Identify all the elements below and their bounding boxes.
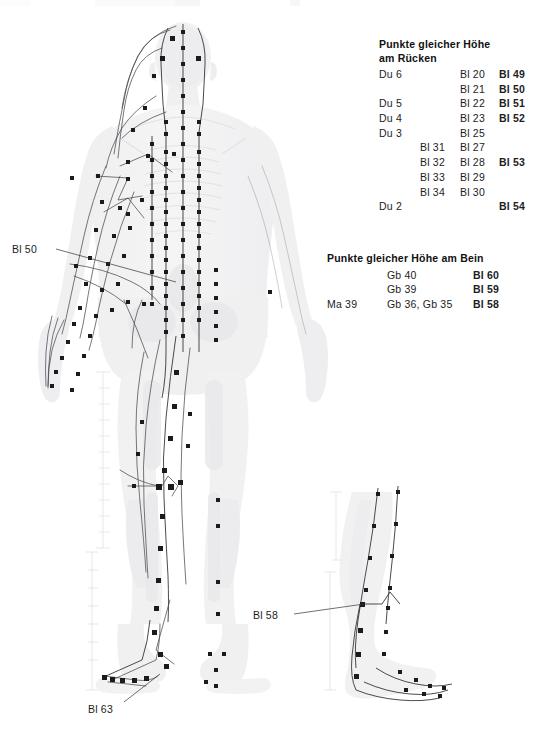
cell-bl: Bl 59 <box>473 284 533 299</box>
cell-bl2x: Bl 27 <box>460 142 499 157</box>
table-row: Gb 40 Bl 60 <box>327 270 533 285</box>
cell-bl2x: Bl 29 <box>460 172 499 187</box>
table-row: Bl 34 Bl 30 <box>379 187 543 202</box>
leg-panel-title: Punkte gleicher Höhe am Bein <box>327 252 543 266</box>
table-row: Bl 33 Bl 29 <box>379 172 543 187</box>
cell-bl2x: Bl 23 <box>460 113 499 128</box>
cell-du: Du 6 <box>379 69 420 84</box>
cell-bl3x: Bl 33 <box>420 172 460 187</box>
cell-bl2x <box>460 201 499 216</box>
cell-bl3x <box>420 69 460 84</box>
cell-bl: Bl 60 <box>473 270 533 285</box>
cell-bl5x <box>499 128 543 143</box>
cell-gb: Gb 39 <box>387 284 473 299</box>
cell-bl5x: Bl 49 <box>499 69 543 84</box>
measurement-ruler <box>86 372 110 690</box>
cell-bl3x: Bl 34 <box>420 187 460 202</box>
cell-bl5x: Bl 51 <box>499 98 543 113</box>
table-row: Bl 21 Bl 50 <box>379 84 543 99</box>
leg-points-table: Gb 40 Bl 60 Gb 39 Bl 59 Ma 39 Gb 36, Gb … <box>327 270 533 314</box>
cell-bl5x: Bl 53 <box>499 157 543 172</box>
cell-gb: Gb 40 <box>387 270 473 285</box>
cell-ma <box>327 284 387 299</box>
cell-bl2x: Bl 22 <box>460 98 499 113</box>
callout-label-bl58: Bl 58 <box>253 609 278 621</box>
table-row: Du 5 Bl 22 Bl 51 <box>379 98 543 113</box>
cell-bl2x: Bl 30 <box>460 187 499 202</box>
cell-du <box>379 187 420 202</box>
leg-inset-figure <box>324 486 452 701</box>
cell-bl2x: Bl 28 <box>460 157 499 172</box>
table-row: Ma 39 Gb 36, Gb 35 Bl 58 <box>327 299 533 314</box>
cell-bl5x: Bl 54 <box>499 201 543 216</box>
table-row: Du 6 Bl 20 Bl 49 <box>379 69 543 84</box>
table-row: Du 4 Bl 23 Bl 52 <box>379 113 543 128</box>
cell-bl5x: Bl 52 <box>499 113 543 128</box>
cell-bl2x: Bl 25 <box>460 128 499 143</box>
table-row: Du 3 Bl 25 <box>379 128 543 143</box>
cell-du <box>379 172 420 187</box>
cell-bl2x: Bl 20 <box>460 69 499 84</box>
cell-du <box>379 157 420 172</box>
cell-bl3x: Bl 32 <box>420 157 460 172</box>
cell-bl5x: Bl 50 <box>499 84 543 99</box>
cell-bl5x <box>499 187 543 202</box>
cell-bl5x <box>499 172 543 187</box>
back-panel-title-line2: am Rücken <box>379 52 543 66</box>
back-panel-title-line1: Punkte gleicher Höhe <box>379 38 543 52</box>
cell-bl2x: Bl 21 <box>460 84 499 99</box>
cell-du: Du 4 <box>379 113 420 128</box>
cell-ma: Ma 39 <box>327 299 387 314</box>
table-row: Bl 32 Bl 28 Bl 53 <box>379 157 543 172</box>
cell-bl3x <box>420 201 460 216</box>
cell-du <box>379 84 420 99</box>
cell-du <box>379 142 420 157</box>
back-points-panel: Punkte gleicher Höhe am Rücken Du 6 Bl 2… <box>379 38 543 216</box>
cell-gb: Gb 36, Gb 35 <box>387 299 473 314</box>
leg-points-panel: Punkte gleicher Höhe am Bein Gb 40 Bl 60… <box>327 252 543 314</box>
cell-ma <box>327 270 387 285</box>
cell-bl: Bl 58 <box>473 299 533 314</box>
callout-label-bl63: Bl 63 <box>88 703 113 715</box>
cell-bl3x <box>420 113 460 128</box>
cell-bl3x <box>420 98 460 113</box>
figure-canvas: Punkte gleicher Höhe am Rücken Du 6 Bl 2… <box>0 0 543 751</box>
cell-du: Du 2 <box>379 201 420 216</box>
table-row: Gb 39 Bl 59 <box>327 284 533 299</box>
cell-du: Du 3 <box>379 128 420 143</box>
cell-du: Du 5 <box>379 98 420 113</box>
cell-bl3x: Bl 31 <box>420 142 460 157</box>
cell-bl5x <box>499 142 543 157</box>
cell-bl3x <box>420 84 460 99</box>
table-row: Du 2 Bl 54 <box>379 201 543 216</box>
table-row: Bl 31 Bl 27 <box>379 142 543 157</box>
back-points-table: Du 6 Bl 20 Bl 49 Bl 21 Bl 50 Du 5 Bl 22 … <box>379 69 543 216</box>
cell-bl3x <box>420 128 460 143</box>
callout-label-bl50: Bl 50 <box>12 243 37 255</box>
